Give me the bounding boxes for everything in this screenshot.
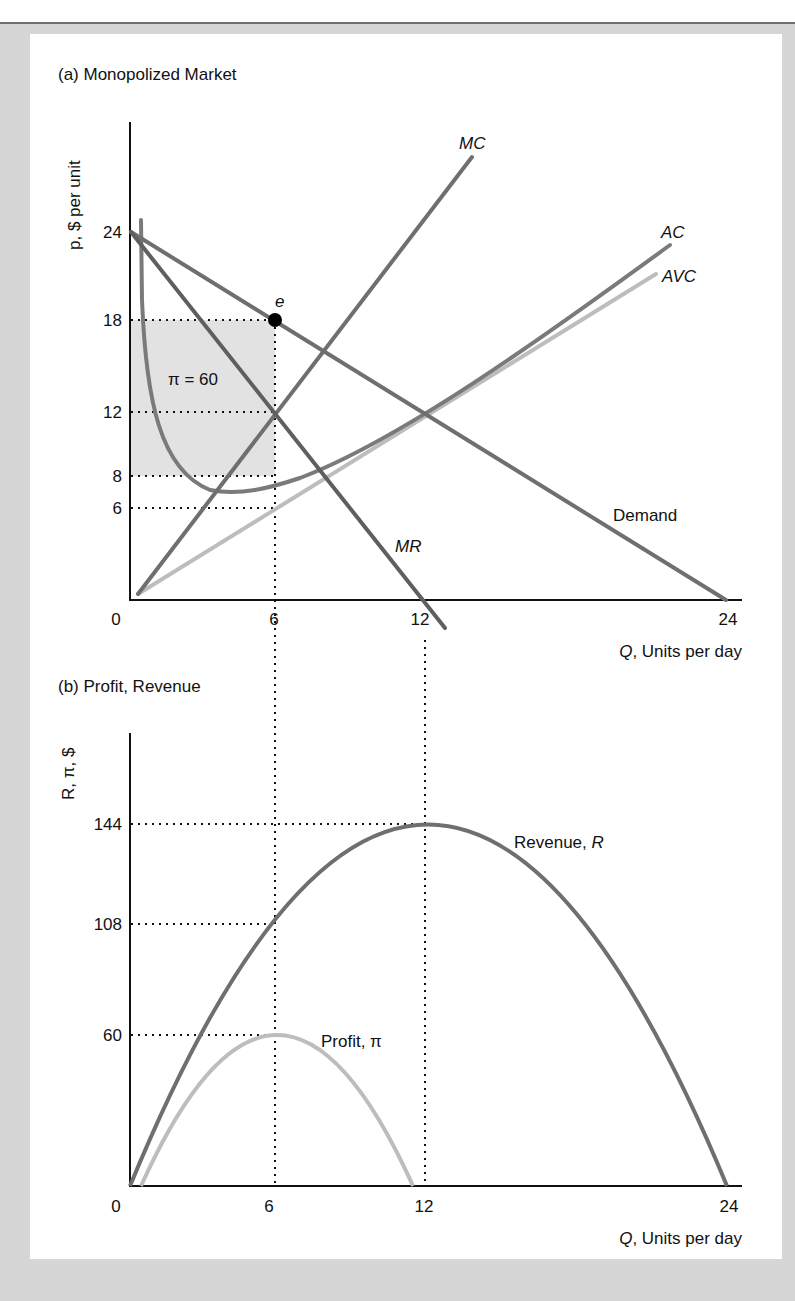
x-tick-0: 0	[111, 610, 120, 629]
figure-canvas: p, $ per unit (a) Monopolized Market 24	[0, 0, 795, 1301]
profit-label: Profit, π	[321, 1032, 382, 1051]
y-tick-24: 24	[103, 223, 122, 242]
panel-b-title: (b) Profit, Revenue	[58, 677, 201, 696]
y-tick-6: 6	[113, 499, 122, 518]
mr-label: MR	[395, 537, 421, 556]
panel-a-y-axis-label: p, $ per unit	[65, 160, 84, 250]
ac-label: AC	[660, 223, 685, 242]
equilibrium-label: e	[275, 292, 284, 311]
b-x-tick-6: 6	[264, 1197, 273, 1216]
revenue-label: Revenue, R	[514, 833, 604, 852]
y-tick-12: 12	[103, 403, 122, 422]
y-tick-108: 108	[94, 915, 122, 934]
panel-b-x-axis-label: Q, Units per day	[619, 1229, 742, 1248]
b-x-tick-0: 0	[111, 1197, 120, 1216]
panel-a-title-text: (a) Monopolized Market	[58, 65, 237, 84]
y-tick-144: 144	[94, 815, 122, 834]
panel-a-x-axis-label: Q, Units per day	[619, 642, 742, 661]
panel-b-y-axis-label: R, π, $	[59, 747, 78, 800]
demand-label: Demand	[613, 506, 677, 525]
avc-label: AVC	[661, 267, 697, 286]
y-tick-8: 8	[113, 467, 122, 486]
profit-area-label: π = 60	[168, 370, 218, 389]
x-tick-24: 24	[719, 610, 738, 629]
b-x-tick-24: 24	[720, 1197, 739, 1216]
x-tick-6: 6	[269, 610, 278, 629]
equilibrium-point	[268, 313, 282, 327]
y-tick-60: 60	[103, 1026, 122, 1045]
y-tick-18: 18	[103, 311, 122, 330]
b-x-tick-12: 12	[415, 1197, 434, 1216]
x-tick-12: 12	[411, 610, 430, 629]
mc-label: MC	[459, 134, 486, 153]
